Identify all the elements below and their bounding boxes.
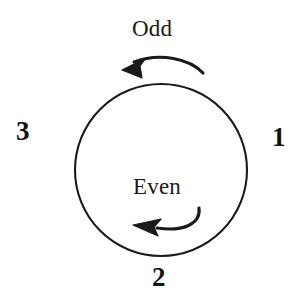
even-phase-label: Even [133, 175, 181, 198]
step-number-left: 3 [16, 118, 30, 145]
step-number-bottom: 2 [152, 264, 166, 291]
odd-phase-label: Odd [132, 17, 172, 40]
cycle-circle [75, 84, 247, 256]
even-phase-arrow-shaft [157, 208, 199, 229]
even-phase-arrow [133, 208, 199, 236]
odd-phase-arrow [122, 57, 203, 78]
diagram-canvas [0, 0, 308, 305]
cycle-diagram-figure: Odd Even 1 2 3 [0, 0, 308, 305]
step-number-right: 1 [272, 124, 286, 151]
